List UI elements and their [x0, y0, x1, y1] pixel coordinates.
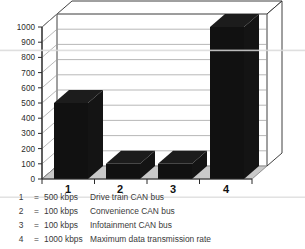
- legend-eq-3: =: [34, 220, 39, 230]
- y-tick-400: 400: [21, 114, 35, 123]
- x-label-3: 3: [170, 183, 176, 195]
- y-tick-100: 100: [21, 160, 35, 169]
- legend-rate-1: 500 kbps: [44, 192, 78, 202]
- x-tick-marks: [42, 179, 252, 184]
- legend: 1 = 500 kbps Drive train CAN bus 2 = 100…: [19, 192, 212, 244]
- legend-eq-2: =: [34, 206, 39, 216]
- y-tick-500: 500: [21, 99, 35, 108]
- y-tick-300: 300: [21, 129, 35, 138]
- legend-label-3: Infotainment CAN bus: [90, 220, 172, 230]
- y-tick-800: 800: [21, 53, 35, 62]
- legend-num-4: 4: [19, 234, 24, 244]
- y-tick-labels: 1000 900 800 700 600 500 400 300 200 100…: [17, 23, 36, 184]
- y-tick-200: 200: [21, 145, 35, 154]
- legend-row-4: 4 = 1000 kbps Maximum data transmission …: [19, 234, 212, 244]
- plot-right-face: [267, 1, 282, 166]
- legend-rate-3: 100 kbps: [44, 220, 78, 230]
- legend-num-2: 2: [19, 206, 24, 216]
- legend-num-1: 1: [19, 192, 24, 202]
- bar-1: [54, 90, 103, 179]
- scan-artifact-upper: [0, 50, 305, 52]
- y-tick-1000: 1000: [17, 23, 36, 32]
- bar-4: [210, 14, 259, 179]
- chart-container: 1000 900 800 700 600 500 400 300 200 100…: [0, 0, 305, 249]
- legend-label-4: Maximum data transmission rate: [90, 234, 211, 244]
- legend-rate-2: 100 kbps: [44, 206, 78, 216]
- legend-eq-4: =: [34, 234, 39, 244]
- legend-row-3: 3 = 100 kbps Infotainment CAN bus: [19, 220, 172, 230]
- y-tick-700: 700: [21, 69, 35, 78]
- bar-chart-3d: 1000 900 800 700 600 500 400 300 200 100…: [0, 0, 305, 249]
- y-tick-600: 600: [21, 84, 35, 93]
- y-tick-0: 0: [30, 175, 35, 184]
- legend-label-1: Drive train CAN bus: [90, 192, 164, 202]
- legend-eq-1: =: [34, 192, 39, 202]
- x-label-4: 4: [223, 183, 230, 195]
- legend-row-2: 2 = 100 kbps Convenience CAN bus: [19, 206, 175, 216]
- legend-num-3: 3: [19, 220, 24, 230]
- legend-rate-4: 1000 kbps: [44, 234, 83, 244]
- legend-label-2: Convenience CAN bus: [90, 206, 175, 216]
- y-tick-900: 900: [21, 38, 35, 47]
- plot-top-face: [57, 1, 282, 14]
